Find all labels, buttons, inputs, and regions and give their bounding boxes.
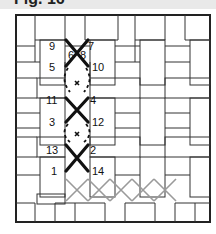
stitch-number: 7	[88, 40, 94, 52]
stitch-number: 10	[92, 61, 104, 73]
stitch-number: 9	[49, 40, 55, 52]
stitch-number: 1	[51, 165, 57, 177]
stitch-number: 4	[90, 94, 96, 106]
stitch-number: 12	[92, 116, 104, 128]
stitch-number: 2	[90, 144, 96, 156]
stitch-number: 6	[68, 49, 74, 61]
stitch-number: 14	[92, 165, 104, 177]
stitch-number: 3	[49, 116, 55, 128]
stitch-number: 8	[80, 49, 86, 61]
stitch-number: 11	[46, 94, 57, 106]
stitch-number: 5	[49, 61, 55, 73]
stitch-number: 13	[46, 144, 58, 156]
stitch-diagram: 9 7 6 8 5 10 11 4 3 12 13 2 1 14	[0, 0, 216, 234]
